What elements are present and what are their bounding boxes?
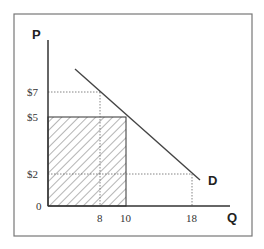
y-tick-2: $2 [27,168,38,180]
shaded-region [48,117,126,206]
x-axis-label: Q [227,210,237,225]
y-tick-7: $7 [27,86,39,98]
x-tick-10: 10 [120,212,132,224]
y-tick-5: $5 [27,111,39,123]
demand-chart: P Q D $7 $5 $2 0 8 10 18 [0,0,264,249]
demand-label: D [208,173,217,188]
x-tick-18: 18 [186,212,198,224]
x-tick-8: 8 [97,212,103,224]
y-axis-label: P [32,27,41,42]
origin-label: 0 [36,200,42,212]
